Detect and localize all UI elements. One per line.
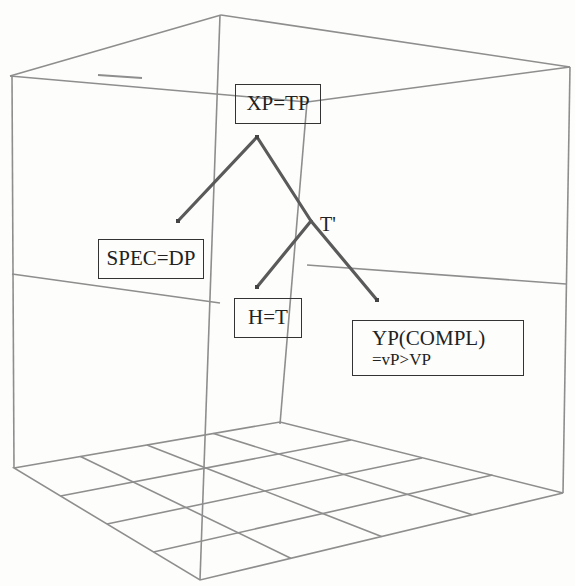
node-head-t: H=T	[234, 298, 302, 338]
small-mark	[98, 75, 142, 78]
head-point	[255, 285, 259, 289]
complement-line-1: YP(COMPL)	[372, 327, 523, 349]
tree-branches	[178, 137, 377, 300]
diagram-canvas: XP=TP SPEC=DP T' H=T YP(COMPL) =vP>VP	[0, 0, 575, 586]
complement-line-2: =vP>VP	[372, 349, 523, 371]
top-edge-back-right	[221, 15, 570, 67]
spec-point	[176, 219, 180, 223]
branch-root-spec	[178, 137, 257, 221]
right-vertical	[563, 67, 570, 493]
floor-line-6	[214, 434, 473, 515]
floor-grid	[14, 422, 563, 580]
floor-line-5	[147, 445, 382, 537]
node-t-bar-label: T'	[320, 213, 336, 236]
node-root-xp-tp: XP=TP	[235, 84, 321, 124]
branch-endpoints	[176, 135, 379, 302]
root-point	[255, 135, 259, 139]
left-vertical	[12, 76, 14, 468]
top-edge-back-left	[10, 15, 221, 76]
center-vertical-back	[280, 102, 307, 424]
node-spec-dp: SPEC=DP	[98, 239, 204, 279]
compl-point	[375, 298, 379, 302]
node-complement-yp: YP(COMPL) =vP>VP	[352, 320, 524, 376]
mid-line-right	[307, 265, 566, 284]
center-vertical-front	[200, 15, 220, 580]
top-edge-front-right	[307, 67, 570, 102]
branch-tbar-head	[257, 221, 311, 287]
